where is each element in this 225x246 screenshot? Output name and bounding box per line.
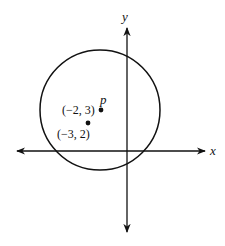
- diagram-canvas: x y p (−2, 3) (−3, 2): [0, 0, 225, 246]
- center-label-p: p: [99, 92, 107, 107]
- center-point-p: [99, 108, 104, 113]
- point-minus3-2-label: (−3, 2): [57, 127, 90, 141]
- point-minus3-2: [86, 121, 91, 126]
- coordinate-plane: x y p (−2, 3) (−3, 2): [0, 0, 225, 246]
- center-point-label: (−2, 3): [62, 103, 95, 117]
- y-axis-label: y: [120, 9, 128, 24]
- x-axis-label: x: [209, 143, 216, 158]
